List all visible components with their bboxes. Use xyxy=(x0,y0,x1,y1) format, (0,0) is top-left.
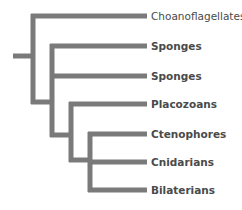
label-placozoans: Placozoans xyxy=(151,98,217,110)
label-choanoflagellates: Choanoflagellates xyxy=(151,10,242,22)
label-sponges-2: Sponges xyxy=(151,70,202,82)
label-bilaterians: Bilaterians xyxy=(151,184,215,196)
label-sponges-1: Sponges xyxy=(151,40,202,52)
label-ctenophores: Ctenophores xyxy=(151,128,226,140)
label-cnidarians: Cnidarians xyxy=(151,156,214,168)
phylogenetic-tree: Choanoflagellates Sponges Sponges Placoz… xyxy=(0,0,242,210)
